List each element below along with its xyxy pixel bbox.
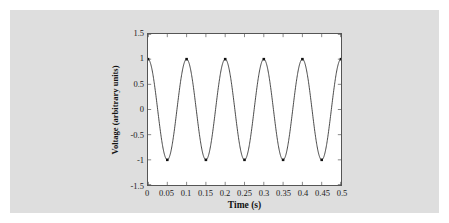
x-axis-tick-label: 0.4 [298, 188, 309, 198]
data-point-marker [263, 58, 266, 61]
plot-svg [148, 34, 341, 185]
x-axis-tick-label: 0.2 [220, 188, 231, 198]
data-point-marker [243, 159, 246, 162]
data-point-marker [205, 159, 208, 162]
y-axis-tick-label: 1 [140, 54, 144, 63]
data-point-marker [224, 58, 227, 61]
y-axis-label: Voltage (arbitrary units) [110, 65, 120, 154]
x-axis-tick-label: 0.25 [237, 188, 252, 198]
data-point-marker [166, 159, 169, 162]
x-axis-tick-label: 0.35 [276, 188, 291, 198]
y-axis-tick-label: -0.5 [131, 131, 144, 140]
x-axis-tick-label: 0.15 [198, 188, 213, 198]
y-axis-label-container: Voltage (arbitrary units) [108, 33, 122, 186]
x-axis-tick-label: 0 [145, 188, 149, 198]
data-point-marker [148, 58, 149, 61]
y-axis-tick-label: 0.5 [133, 80, 144, 89]
data-point-marker [320, 159, 323, 162]
plot-area [147, 33, 342, 186]
y-axis-tick-labels: 1.510.50-0.5-1-1.5 [122, 33, 144, 186]
x-axis-tick-label: 0.3 [259, 188, 270, 198]
x-axis-tick-labels: 00.050.10.150.20.250.30.350.40.450.5 [147, 188, 342, 200]
data-point-marker [282, 159, 285, 162]
y-axis-tick-label: 0 [140, 105, 144, 114]
figure-background: Voltage (arbitrary units) 1.510.50-0.5-1… [10, 10, 439, 213]
x-axis-label: Time (s) [147, 200, 342, 210]
x-axis-tick-label: 0.1 [181, 188, 192, 198]
x-axis-tick-label: 0.05 [159, 188, 174, 198]
data-point-marker [185, 58, 188, 61]
y-axis-tick-label: -1 [137, 156, 144, 165]
data-point-marker [340, 58, 341, 61]
x-axis-tick-label: 0.5 [337, 188, 348, 198]
chart-page: Voltage (arbitrary units) 1.510.50-0.5-1… [0, 0, 449, 223]
y-axis-tick-label: 1.5 [133, 29, 144, 38]
x-axis-tick-label: 0.45 [315, 188, 330, 198]
data-curve [148, 59, 341, 160]
y-axis-tick-label: -1.5 [131, 182, 144, 191]
data-point-marker [301, 58, 304, 61]
